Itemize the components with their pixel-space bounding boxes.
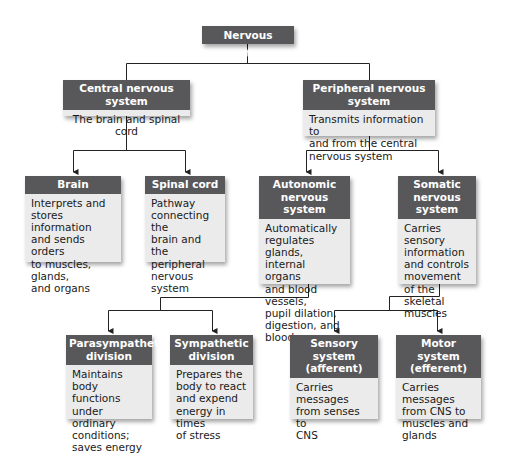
node-title: Brain bbox=[25, 176, 121, 194]
node-title: Nervous system bbox=[224, 29, 273, 59]
node-title: Motor system (efferent) bbox=[396, 335, 481, 378]
node-description: Interprets and stores information and se… bbox=[25, 194, 121, 299]
node-description: Maintains body functions under ordinary … bbox=[66, 365, 152, 457]
node-title: Central nervous system bbox=[63, 80, 190, 110]
node-title: Autonomic nervous system bbox=[259, 176, 350, 219]
node-description: Automatically regulates glands, internal… bbox=[259, 219, 350, 348]
node-description: Carries messages from CNS to muscles and… bbox=[396, 378, 481, 446]
node-parasympathetic-division: Parasympathetic division Maintains body … bbox=[66, 335, 152, 419]
node-sympathetic-division: Sympathetic division Prepares the body t… bbox=[170, 335, 253, 419]
node-spinal-cord: Spinal cord Pathway connecting the brain… bbox=[145, 176, 225, 262]
node-title: Peripheral nervous system bbox=[303, 80, 435, 110]
node-description: The brain and spinal cord bbox=[63, 110, 190, 141]
node-description: Carries messages from senses to CNS bbox=[290, 378, 378, 446]
node-brain: Brain Interprets and stores information … bbox=[25, 176, 121, 262]
node-motor-system: Motor system (efferent) Carries messages… bbox=[396, 335, 481, 419]
node-nervous-system: Nervous system bbox=[202, 26, 294, 44]
node-description: Carries sensory information and controls… bbox=[398, 219, 476, 324]
node-somatic-nervous-system: Somatic nervous system Carries sensory i… bbox=[398, 176, 476, 284]
node-central-nervous-system: Central nervous system The brain and spi… bbox=[63, 80, 190, 116]
node-title: Spinal cord bbox=[145, 176, 225, 194]
node-title: Sensory system (afferent) bbox=[290, 335, 378, 378]
node-peripheral-nervous-system: Peripheral nervous system Transmits info… bbox=[303, 80, 435, 136]
node-title: Sympathetic division bbox=[170, 335, 253, 365]
node-description: Prepares the body to react and expend en… bbox=[170, 365, 253, 445]
node-title: Somatic nervous system bbox=[398, 176, 476, 219]
node-autonomic-nervous-system: Autonomic nervous system Automatically r… bbox=[259, 176, 350, 284]
node-description: Pathway connecting the brain and the per… bbox=[145, 194, 225, 299]
node-description: Transmits information to and from the ce… bbox=[303, 110, 435, 166]
node-title: Parasympathetic division bbox=[66, 335, 152, 365]
node-sensory-system: Sensory system (afferent) Carries messag… bbox=[290, 335, 378, 419]
